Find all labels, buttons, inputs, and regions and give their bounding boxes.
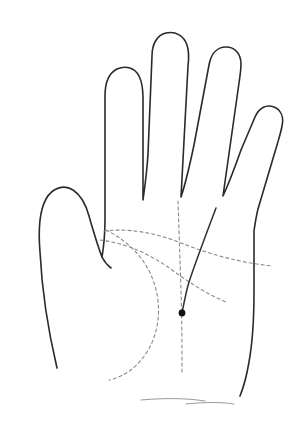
palm-point-marker[interactable] [179,310,186,317]
palm-diagram-figure: Palm line diagram [0,0,293,435]
palm-diagram-canvas: Palm line diagram [0,0,293,435]
canvas-background [0,0,293,435]
